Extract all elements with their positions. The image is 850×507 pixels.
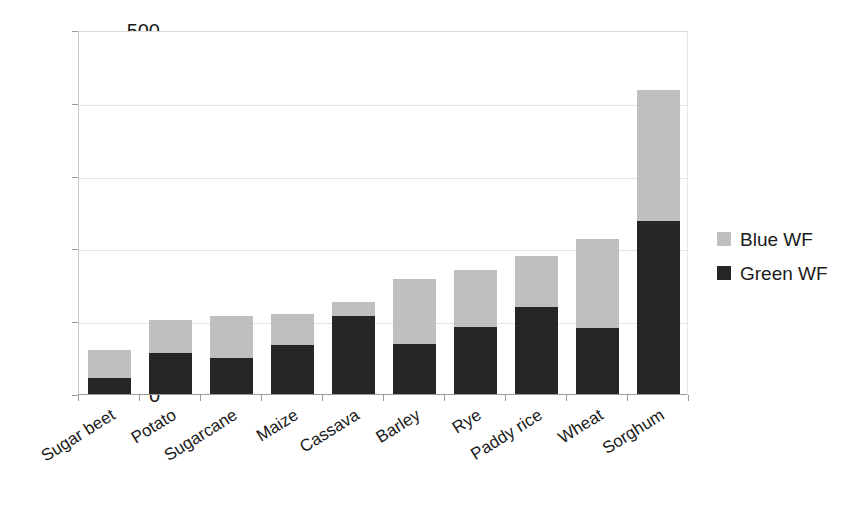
bar-segment-blue-wf[interactable] xyxy=(576,239,619,329)
bar-segment-green-wf[interactable] xyxy=(88,378,131,394)
bar-segment-blue-wf[interactable] xyxy=(454,270,497,328)
bar-group[interactable] xyxy=(637,90,680,394)
bar-segment-green-wf[interactable] xyxy=(332,316,375,394)
x-tick-mark xyxy=(78,395,79,401)
legend-swatch-green-wf xyxy=(717,266,731,280)
bar-segment-blue-wf[interactable] xyxy=(271,314,314,345)
bar-segment-green-wf[interactable] xyxy=(149,353,192,394)
bar-group[interactable] xyxy=(576,239,619,394)
x-tick-mark xyxy=(688,395,689,401)
bars-layer xyxy=(79,32,687,394)
bar-segment-blue-wf[interactable] xyxy=(515,256,558,307)
legend-label-green-wf: Green WF xyxy=(740,264,828,283)
bar-group[interactable] xyxy=(454,270,497,394)
bar-segment-green-wf[interactable] xyxy=(637,221,680,394)
plot-area xyxy=(78,31,688,395)
bar-segment-green-wf[interactable] xyxy=(515,307,558,394)
legend-swatch-blue-wf xyxy=(717,232,731,246)
bar-segment-blue-wf[interactable] xyxy=(88,350,131,378)
x-tick-mark xyxy=(444,395,445,401)
bar-group[interactable] xyxy=(149,320,192,394)
bar-group[interactable] xyxy=(88,350,131,394)
legend-label-blue-wf: Blue WF xyxy=(740,230,813,249)
bar-group[interactable] xyxy=(271,314,314,394)
bar-group[interactable] xyxy=(332,302,375,394)
legend-item-green-wf[interactable]: Green WF xyxy=(717,256,842,290)
bar-segment-blue-wf[interactable] xyxy=(332,302,375,316)
stacked-bar-chart: 0100200300400500 Sugar beetPotatoSugarca… xyxy=(0,0,850,507)
x-tick-mark xyxy=(566,395,567,401)
x-tick-mark xyxy=(505,395,506,401)
x-tick-mark xyxy=(200,395,201,401)
x-tick-mark xyxy=(261,395,262,401)
x-tick-mark xyxy=(383,395,384,401)
x-tick-mark xyxy=(627,395,628,401)
bar-segment-green-wf[interactable] xyxy=(271,345,314,395)
bar-segment-green-wf[interactable] xyxy=(576,328,619,394)
legend-item-blue-wf[interactable]: Blue WF xyxy=(717,222,842,256)
bar-segment-green-wf[interactable] xyxy=(454,327,497,394)
bar-group[interactable] xyxy=(393,279,436,394)
bar-group[interactable] xyxy=(515,256,558,394)
legend: Blue WF Green WF xyxy=(717,222,842,290)
bar-segment-blue-wf[interactable] xyxy=(637,90,680,221)
bar-segment-green-wf[interactable] xyxy=(210,358,253,394)
bar-segment-green-wf[interactable] xyxy=(393,344,436,394)
bar-group[interactable] xyxy=(210,316,253,394)
bar-segment-blue-wf[interactable] xyxy=(393,279,436,344)
x-tick-mark xyxy=(139,395,140,401)
x-tick-mark xyxy=(322,395,323,401)
bar-segment-blue-wf[interactable] xyxy=(149,320,192,353)
bar-segment-blue-wf[interactable] xyxy=(210,316,253,357)
